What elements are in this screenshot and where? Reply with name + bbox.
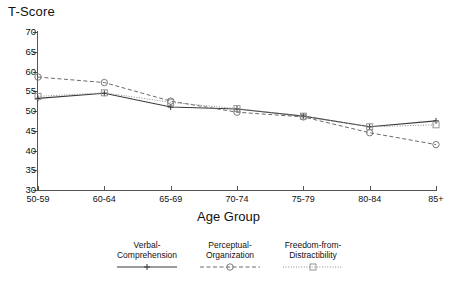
legend-label-line2: Comprehension <box>102 250 192 260</box>
data-point-square <box>367 124 373 130</box>
legend-label-line2: Organization <box>185 250 275 260</box>
series-line <box>38 93 436 127</box>
chart-legend: Verbal-ComprehensionPerceptual-Organizat… <box>112 240 352 282</box>
y-tick-label-wrap: 55 <box>0 86 36 96</box>
x-tick <box>370 186 371 191</box>
y-tick-label-wrap: 40 <box>0 146 36 156</box>
x-tick <box>436 186 437 191</box>
x-tick-label: 75-79 <box>280 194 326 204</box>
y-tick-label-wrap: 35 <box>0 165 36 175</box>
legend-label-line2: Distractibility <box>268 250 358 260</box>
data-point-cross <box>35 95 41 101</box>
data-point-square <box>168 99 174 105</box>
data-point-circle <box>300 114 306 120</box>
x-tick-label: 50-59 <box>15 194 61 204</box>
x-tick-label: 60-64 <box>81 194 127 204</box>
series-freedom-from-distractibility <box>35 90 439 130</box>
x-tick <box>104 186 105 191</box>
y-tick-label-wrap: 70 <box>0 27 36 37</box>
data-point-cross <box>367 124 373 130</box>
data-point-cross <box>101 90 107 96</box>
y-tick-label: 55 <box>10 86 36 95</box>
x-tick <box>303 186 304 191</box>
x-axis-title: Age Group <box>0 209 457 224</box>
data-point-cross <box>168 104 174 110</box>
data-point-circle <box>234 109 240 115</box>
y-axis-title: T-Score <box>8 4 55 19</box>
legend-key <box>185 262 275 272</box>
legend-key <box>102 262 192 272</box>
data-point-square <box>300 113 306 119</box>
y-tick-label-wrap: 60 <box>0 67 36 77</box>
chart-root: T-Score 303540455055606570 50-5960-6465-… <box>0 0 457 285</box>
y-tick-label-wrap: 45 <box>0 126 36 136</box>
data-point-square <box>433 122 439 128</box>
data-point-circle <box>366 130 372 136</box>
data-point-circle <box>101 79 107 85</box>
y-tick-label: 45 <box>10 126 36 135</box>
legend-item-0: Verbal-Comprehension <box>102 240 192 272</box>
legend-item-1: Perceptual-Organization <box>185 240 275 272</box>
x-tick-label: 65-69 <box>148 194 194 204</box>
y-tick-label-wrap: 50 <box>0 106 36 116</box>
data-point-cross <box>433 118 439 124</box>
legend-label-line1: Freedom-from- <box>268 240 358 250</box>
y-tick-label-wrap: 65 <box>0 47 36 57</box>
data-point-circle <box>433 141 439 147</box>
x-tick <box>171 186 172 191</box>
y-tick-label: 50 <box>10 106 36 115</box>
data-point-square <box>234 106 240 112</box>
legend-key <box>268 262 358 272</box>
x-tick <box>38 186 39 191</box>
x-tick <box>237 186 238 191</box>
x-tick-label: 70-74 <box>214 194 260 204</box>
y-tick-label: 60 <box>10 67 36 76</box>
legend-label-line1: Verbal- <box>102 240 192 250</box>
x-tick-label: 85+ <box>413 194 457 204</box>
y-tick-label: 30 <box>10 185 36 194</box>
series-perceptual-organization <box>35 74 439 148</box>
series-line <box>38 77 436 145</box>
y-tick-label: 65 <box>10 47 36 56</box>
legend-item-2: Freedom-from-Distractibility <box>268 240 358 272</box>
y-tick-label: 70 <box>10 27 36 36</box>
legend-label-line1: Perceptual- <box>185 240 275 250</box>
y-tick-label: 35 <box>10 165 36 174</box>
data-point-cross <box>144 264 150 270</box>
series-verbal-comprehension <box>35 90 439 130</box>
x-tick-label: 80-84 <box>347 194 393 204</box>
data-point-circle <box>167 98 173 104</box>
series-line <box>38 93 436 127</box>
data-point-cross <box>300 113 306 119</box>
y-tick-label: 40 <box>10 146 36 155</box>
data-point-square <box>101 90 107 96</box>
data-point-cross <box>234 106 240 112</box>
